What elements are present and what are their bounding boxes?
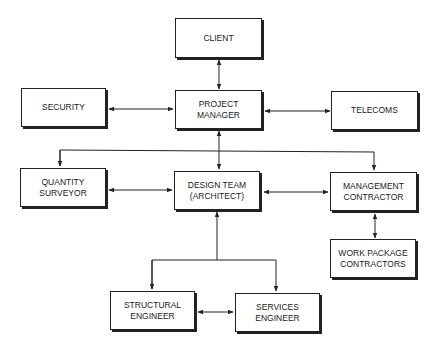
node-label: CLIENT	[203, 33, 233, 44]
node-label-line2: CONTRACTORS	[340, 259, 406, 270]
node-label-line1: SERVICES	[256, 302, 299, 313]
node-label-line1: WORK PACKAGE	[338, 248, 407, 259]
node-telecoms: TELECOMS	[331, 91, 418, 130]
node-design-team: DESIGN TEAM (ARCHITECT)	[174, 171, 260, 210]
node-label-line2: (ARCHITECT)	[190, 191, 244, 202]
node-label-line2: ENGINEER	[255, 313, 299, 324]
node-work-package-contractors: WORK PACKAGE CONTRACTORS	[330, 239, 416, 278]
node-services-engineer: SERVICES ENGINEER	[235, 293, 320, 332]
edge-junction-services	[152, 260, 276, 291]
node-label: TELECOMS	[351, 105, 398, 116]
node-client: CLIENT	[175, 18, 262, 58]
node-label-line1: PROJECT	[199, 99, 239, 110]
node-label-line1: DESIGN TEAM	[188, 180, 246, 191]
node-label-line2: ENGINEER	[130, 311, 174, 322]
node-quantity-surveyor: QUANTITY SURVEYOR	[20, 168, 106, 207]
node-management-contractor: MANAGEMENT CONTRACTOR	[330, 172, 417, 211]
node-label-line2: CONTRACTOR	[344, 192, 404, 203]
node-label: SECURITY	[42, 102, 85, 113]
node-label-line1: STRUCTURAL	[124, 300, 181, 311]
node-project-manager: PROJECT MANAGER	[175, 90, 262, 129]
node-structural-engineer: STRUCTURAL ENGINEER	[110, 291, 195, 330]
node-label-line1: MANAGEMENT	[343, 181, 404, 192]
edge-branch-mc	[60, 150, 374, 170]
node-label-line1: QUANTITY	[42, 177, 85, 188]
node-label-line2: SURVEYOR	[39, 188, 87, 199]
node-security: SECURITY	[21, 88, 106, 127]
node-label-line2: MANAGER	[197, 110, 240, 121]
